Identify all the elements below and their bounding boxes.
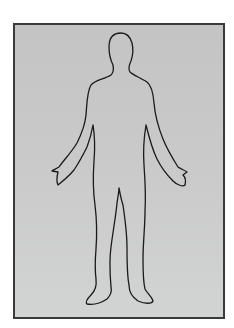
body-diagram-panel xyxy=(13,23,225,319)
human-body-outline-icon xyxy=(15,25,223,317)
